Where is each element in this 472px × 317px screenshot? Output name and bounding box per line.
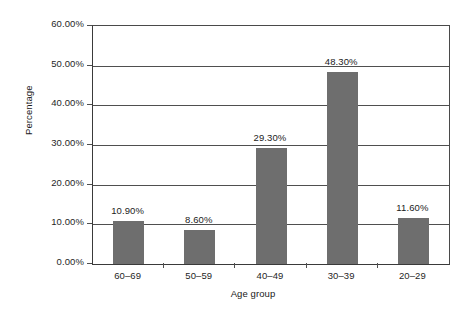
bar-value-label: 8.60% [169, 214, 229, 225]
y-axis-title: Percentage [23, 35, 41, 135]
bar [398, 218, 429, 264]
x-tick-label: 30–39 [306, 270, 376, 281]
bar [327, 72, 358, 264]
bar-value-label: 10.90% [98, 205, 158, 216]
y-tick-label: 30.00% [28, 137, 84, 148]
x-tick-mark [234, 263, 235, 268]
bar-value-label: 29.30% [240, 132, 300, 143]
x-tick-label: 20–29 [377, 270, 447, 281]
bar-value-label: 48.30% [311, 56, 371, 67]
x-tick-mark [163, 263, 164, 268]
y-tick-label: 10.00% [28, 216, 84, 227]
bar [256, 148, 287, 264]
y-tick-label: 50.00% [28, 58, 84, 69]
bar-chart: Percentage 0.00%10.00%20.00%30.00%40.00%… [0, 0, 472, 317]
y-tick-label: 0.00% [28, 256, 84, 267]
gridline [93, 66, 449, 67]
gridline [93, 145, 449, 146]
y-tick-label: 40.00% [28, 97, 84, 108]
plot-area [92, 25, 450, 265]
bar-value-label: 11.60% [382, 202, 442, 213]
y-tick-label: 60.00% [28, 18, 84, 29]
y-tick-label: 20.00% [28, 177, 84, 188]
x-tick-mark [377, 263, 378, 268]
x-tick-label: 50–59 [164, 270, 234, 281]
x-tick-label: 40–49 [235, 270, 305, 281]
bar [184, 230, 215, 264]
x-tick-mark [306, 263, 307, 268]
bar [113, 221, 144, 264]
x-tick-label: 60–69 [93, 270, 163, 281]
x-axis-title: Age group [0, 288, 472, 299]
gridline [93, 105, 449, 106]
